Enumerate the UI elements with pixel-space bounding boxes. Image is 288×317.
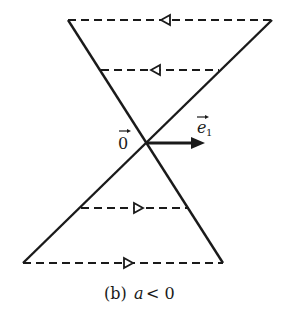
caption: (b) a < 0: [104, 284, 175, 303]
vector-label-e1: e 1: [197, 115, 212, 138]
diagram-canvas: 0 e 1 (b) a < 0: [0, 0, 288, 317]
svg-text:(b): (b): [104, 284, 127, 303]
arrow-left-icon: [161, 15, 170, 25]
svg-text:< 0: < 0: [146, 284, 175, 303]
svg-text:0: 0: [118, 134, 128, 153]
arrow-right-icon: [124, 258, 133, 268]
svg-text:a: a: [134, 284, 144, 303]
arrow-left-icon: [151, 65, 160, 75]
vector-arrowhead-icon: [191, 137, 205, 149]
arrow-right-icon: [134, 203, 143, 213]
svg-text:1: 1: [206, 127, 212, 138]
origin-label: 0: [118, 129, 131, 153]
